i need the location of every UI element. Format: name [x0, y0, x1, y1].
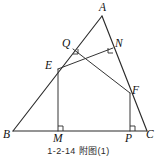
point-label-P: P	[125, 133, 132, 145]
right-angle-at-M	[58, 126, 63, 131]
figure-canvas	[0, 0, 157, 157]
right-angle-marks-group	[58, 48, 135, 131]
point-label-Q: Q	[62, 38, 70, 50]
point-label-E: E	[45, 60, 52, 72]
figure-caption: 1-2-14 附图(1)	[0, 144, 157, 157]
segments-group	[13, 16, 147, 131]
right-angle-at-P	[130, 126, 135, 131]
side-AC	[102, 16, 147, 131]
point-label-N: N	[115, 38, 123, 50]
cevian-QF	[73, 49, 130, 93]
geometry-figure: ABCEMFPQN 1-2-14 附图(1)	[0, 0, 157, 157]
point-label-C: C	[146, 129, 154, 141]
point-label-A: A	[99, 2, 106, 14]
point-label-B: B	[3, 129, 10, 141]
point-label-F: F	[132, 85, 139, 97]
point-label-M: M	[53, 133, 63, 145]
